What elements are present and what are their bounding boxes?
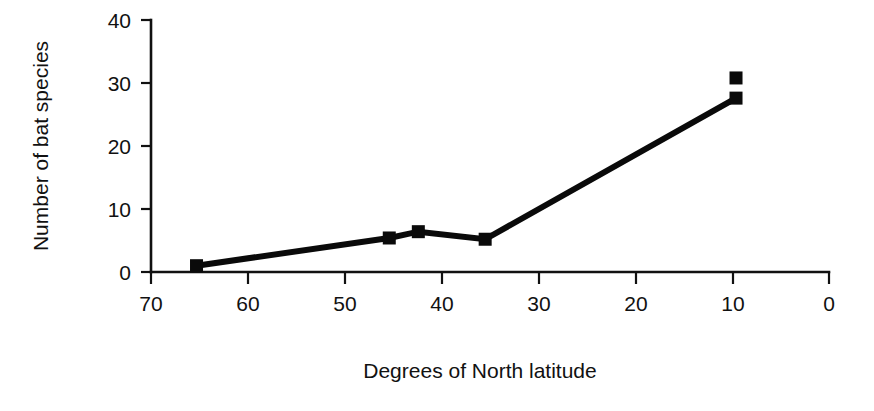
x-tick-label-70: 70: [139, 292, 162, 315]
data-point-marker: [479, 233, 492, 246]
x-tick-label-30: 30: [527, 292, 550, 315]
data-series-layer: [190, 71, 743, 272]
x-tick-label-10: 10: [721, 292, 744, 315]
x-tick-label-50: 50: [333, 292, 356, 315]
x-tick-label-20: 20: [624, 292, 647, 315]
data-point-marker: [190, 259, 203, 272]
data-point-marker: [730, 92, 743, 105]
data-point-marker: [383, 231, 396, 244]
x-tick-group: [151, 272, 829, 284]
y-axis-title: Number of bat species: [29, 41, 52, 251]
y-tick-group: [141, 20, 151, 272]
x-tick-label-60: 60: [236, 292, 259, 315]
x-tick-label-40: 40: [430, 292, 453, 315]
y-tick-label-20: 20: [108, 135, 131, 158]
y-tick-label-30: 30: [108, 72, 131, 95]
y-tick-label-10: 10: [108, 198, 131, 221]
x-axis-title: Degrees of North latitude: [363, 359, 596, 382]
chart-figure: 40 30 20 10 0 70 60 50 40 30 20 10 0: [0, 0, 874, 411]
bat-species-latitude-line-chart: 40 30 20 10 0 70 60 50 40 30 20 10 0: [0, 0, 874, 411]
x-tick-label-0: 0: [823, 292, 835, 315]
series-line-0: [197, 98, 737, 266]
data-point-marker: [412, 225, 425, 238]
y-tick-labels: 40 30 20 10 0: [108, 9, 131, 284]
x-tick-labels: 70 60 50 40 30 20 10 0: [139, 292, 835, 315]
y-tick-label-40: 40: [108, 9, 131, 32]
data-point-marker: [730, 71, 743, 84]
y-tick-label-0: 0: [119, 261, 131, 284]
